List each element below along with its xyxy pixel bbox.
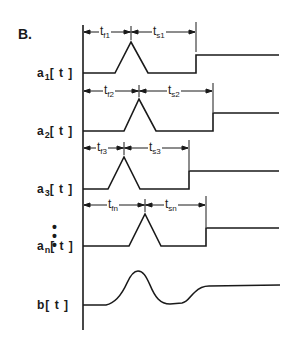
signal-a2-trace [83,99,279,131]
signal-label-a3: a3[ t ] [37,183,73,199]
interval-label-tsn: tsn [164,198,178,215]
timing-diagram [0,0,291,343]
interval-label-tf3: tf3 [96,141,108,158]
interval-label-tf2: tf2 [103,84,115,101]
signal-an-trace [83,214,279,246]
ellipsis-dots: ••• [52,223,57,250]
signal-label-a2: a2[ t ] [37,125,73,141]
signal-label-a1: a1[ t ] [37,67,73,83]
interval-label-ts1: ts1 [152,25,166,42]
signal-b-trace [83,271,280,305]
signal-a1-trace [83,42,279,73]
interval-label-ts2: ts2 [167,84,181,101]
an-interval-markers [84,196,206,227]
signal-a3-trace [83,157,279,189]
interval-label-tfn: tfn [107,198,119,215]
interval-label-ts3: ts3 [148,141,162,158]
interval-label-tf1: tf1 [99,25,111,42]
signal-label-b: b[ t ] [37,299,69,311]
